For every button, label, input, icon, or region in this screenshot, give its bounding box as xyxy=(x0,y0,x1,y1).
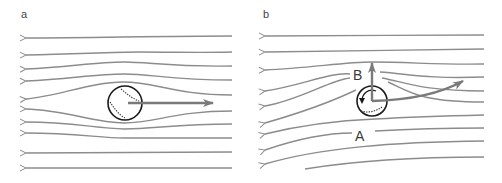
panel-a: a xyxy=(0,0,250,183)
streamline xyxy=(265,115,484,134)
panel-b: b xyxy=(250,0,502,183)
streamline xyxy=(265,62,484,70)
streamline xyxy=(265,128,484,150)
panel-b-diagram: B A xyxy=(250,0,502,183)
streamline xyxy=(26,152,232,153)
streamline xyxy=(26,62,232,69)
point-b-label: B xyxy=(353,67,362,83)
panel-a-diagram xyxy=(0,0,250,183)
streamline xyxy=(26,36,232,38)
streamline xyxy=(26,133,232,138)
point-a-label: A xyxy=(355,128,365,144)
streamline xyxy=(265,35,484,36)
streamline xyxy=(305,157,484,169)
streamline xyxy=(26,52,232,55)
streamline xyxy=(265,49,484,52)
streamline xyxy=(26,74,232,81)
